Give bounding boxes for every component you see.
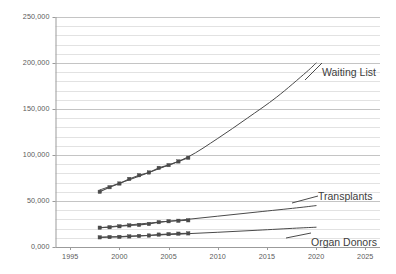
y-axis-tick-label: 0,000 — [0, 243, 50, 250]
series-projection-transplants — [100, 206, 316, 228]
y-axis-tick-label: 200,000 — [0, 59, 50, 66]
x-axis-tick-label: 2000 — [111, 253, 127, 260]
x-axis-tick-label: 1995 — [62, 253, 78, 260]
organ-transplant-trend-chart: 250,000200,000150,000100,00050,0000,000 … — [0, 0, 396, 274]
y-axis-tick-label: 50,000 — [0, 197, 50, 204]
series-label-transplants: Transplants — [318, 191, 372, 202]
data-point-marker — [118, 225, 121, 228]
grid-major-lines — [56, 18, 381, 248]
data-point-marker — [187, 156, 190, 159]
chart-plot-area — [0, 0, 396, 274]
series-observed-transplants — [100, 220, 189, 227]
data-point-marker — [147, 234, 150, 237]
x-axis-tick-label: 2015 — [259, 253, 275, 260]
data-point-marker — [137, 223, 140, 226]
x-axis-tick-label: 2005 — [160, 253, 176, 260]
data-point-marker — [177, 232, 180, 235]
data-point-marker — [128, 235, 131, 238]
y-axis-ticks — [53, 18, 56, 248]
data-point-marker — [108, 186, 111, 189]
data-point-marker — [157, 220, 160, 223]
data-point-marker — [137, 234, 140, 237]
data-point-marker — [147, 222, 150, 225]
data-point-marker — [98, 236, 101, 239]
data-point-marker — [167, 220, 170, 223]
y-axis-tick-label: 100,000 — [0, 151, 50, 158]
series-projection-waiting-list — [100, 63, 316, 190]
data-point-marker — [128, 224, 131, 227]
data-point-marker — [118, 182, 121, 185]
data-point-marker — [128, 177, 131, 180]
data-point-marker — [187, 232, 190, 235]
y-axis-tick-label: 150,000 — [0, 105, 50, 112]
data-point-marker — [177, 160, 180, 163]
data-point-marker — [177, 219, 180, 222]
x-axis-tick-label: 2010 — [210, 253, 226, 260]
series-projection-lines — [100, 63, 316, 237]
series-label-waiting-list: Waiting List — [322, 67, 376, 78]
x-axis-tick-label: 2025 — [357, 253, 373, 260]
data-point-marker — [167, 163, 170, 166]
grid-minor-lines — [56, 27, 381, 239]
legend-leader-lines — [286, 63, 322, 238]
data-point-marker — [118, 235, 121, 238]
y-axis-tick-label: 250,000 — [0, 13, 50, 20]
data-point-marker — [187, 219, 190, 222]
series-observed-organ-donors — [100, 233, 189, 237]
data-point-marker — [137, 174, 140, 177]
series-observed-lines — [100, 158, 189, 238]
legend-leader-line — [286, 233, 311, 238]
data-point-marker — [98, 226, 101, 229]
data-point-marker — [147, 171, 150, 174]
data-point-marker — [98, 190, 101, 193]
data-point-marker — [167, 232, 170, 235]
data-point-marker — [108, 235, 111, 238]
series-label-organ-donors: Organ Donors — [311, 237, 377, 248]
data-point-marker — [157, 166, 160, 169]
data-point-marker — [157, 233, 160, 236]
x-axis-tick-label: 2020 — [308, 253, 324, 260]
data-point-marker — [108, 226, 111, 229]
